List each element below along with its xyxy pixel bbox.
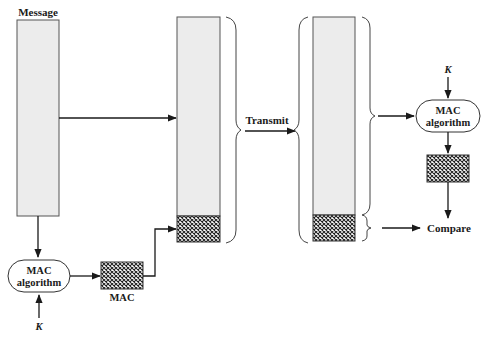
mac-algorithm-sender-line1: MAC (26, 265, 51, 276)
compare-label: Compare (427, 222, 471, 234)
brace-receiver-mac (362, 215, 371, 241)
brace-receiver-message (362, 17, 375, 215)
mac-algorithm-receiver-line1: MAC (435, 105, 460, 116)
arrow-mac-to-appended (143, 229, 176, 276)
computed-mac-box (427, 155, 469, 182)
transmit-label: Transmit (245, 114, 289, 126)
message-block (17, 20, 59, 216)
receiver-message-with-mac (313, 17, 355, 241)
brace-receiver-left (294, 17, 308, 243)
mac-diagram: Message MAC algorithm K MAC Transmit (0, 0, 483, 338)
message-label: Message (18, 6, 58, 18)
mac-algorithm-receiver: MAC algorithm (416, 100, 480, 132)
mac-algorithm-sender: MAC algorithm (8, 260, 70, 292)
sender-message-with-mac (177, 17, 220, 242)
key-receiver-label: K (443, 64, 452, 75)
mac-algorithm-sender-line2: algorithm (17, 277, 62, 288)
mac-algorithm-receiver-line2: algorithm (426, 117, 471, 128)
mac-tag-label: MAC (109, 292, 134, 303)
key-sender-label: K (34, 321, 43, 332)
mac-tag-box (101, 262, 143, 289)
brace-sender (226, 17, 241, 243)
